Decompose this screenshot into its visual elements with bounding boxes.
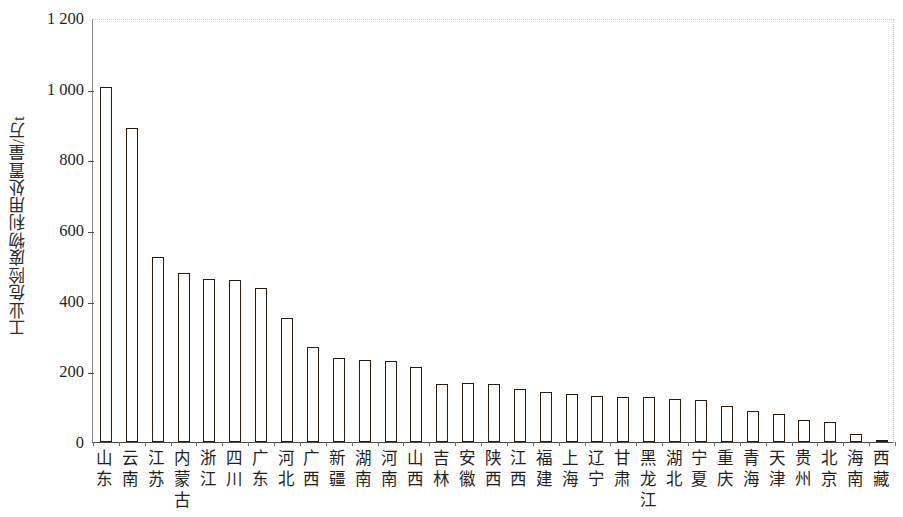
- y-axis-tick-label: 800: [59, 150, 84, 170]
- x-axis-tick-label-char: 海: [842, 448, 868, 469]
- x-axis-tick-label: 重庆: [713, 448, 739, 490]
- x-axis-tick-mark: [248, 442, 249, 446]
- x-axis-tick-label-char: 新: [325, 448, 351, 469]
- bar: [410, 367, 422, 442]
- x-axis-tick-label-char: 江: [506, 448, 532, 469]
- bar: [281, 318, 293, 442]
- x-axis-tick-mark: [533, 442, 534, 446]
- bars-layer: [93, 20, 893, 442]
- x-axis-tick-label-char: 内: [170, 448, 196, 469]
- x-axis-tick-mark: [429, 442, 430, 446]
- x-axis-tick-label: 北京: [816, 448, 842, 490]
- bar: [152, 257, 164, 443]
- x-axis-tick-label-char: 河: [377, 448, 403, 469]
- x-axis-tick-label-char: 湖: [661, 448, 687, 469]
- bar: [617, 397, 629, 442]
- x-axis-tick-mark: [610, 442, 611, 446]
- y-axis-tick-label: 1 200: [47, 9, 84, 29]
- bar: [798, 420, 810, 442]
- x-axis-tick-mark: [585, 442, 586, 446]
- x-axis-tick-label-char: 古: [170, 490, 196, 511]
- x-axis-tick-label-char: 江: [195, 469, 221, 490]
- x-axis-tick-label: 福建: [532, 448, 558, 490]
- x-axis-tick-mark: [714, 442, 715, 446]
- bar: [514, 389, 526, 442]
- x-axis-tick-label: 甘肃: [609, 448, 635, 490]
- bar: [747, 411, 759, 442]
- x-axis-tick-mark: [507, 442, 508, 446]
- bar: [850, 434, 862, 442]
- x-axis-tick-label: 四川: [221, 448, 247, 490]
- x-axis-tick-label-char: 吉: [428, 448, 454, 469]
- bar: [643, 397, 655, 442]
- x-axis-tick-mark: [119, 442, 120, 446]
- x-axis-tick-label-char: 福: [532, 448, 558, 469]
- x-axis-tick-label-char: 上: [558, 448, 584, 469]
- bar: [566, 394, 578, 442]
- x-axis-tick-label-char: 贵: [790, 448, 816, 469]
- x-axis-tick-label-char: 南: [118, 469, 144, 490]
- x-axis-tick-label: 山西: [402, 448, 428, 490]
- x-axis-tick-mark: [740, 442, 741, 446]
- bar: [100, 87, 112, 442]
- x-axis-tick-label: 黑龙江: [635, 448, 661, 511]
- x-axis-tick-mark: [688, 442, 689, 446]
- x-axis-tick-mark: [274, 442, 275, 446]
- x-axis-tick-label-char: 黑: [635, 448, 661, 469]
- x-axis-tick-label: 西藏: [868, 448, 894, 490]
- x-axis-tick-mark: [145, 442, 146, 446]
- x-axis-tick-label: 内蒙古: [170, 448, 196, 511]
- x-axis-tick-label: 云南: [118, 448, 144, 490]
- x-axis-tick-label-char: 河: [273, 448, 299, 469]
- x-axis-tick-label: 江苏: [144, 448, 170, 490]
- x-axis-tick-mark: [196, 442, 197, 446]
- y-axis-tick-label: 600: [59, 221, 84, 241]
- x-axis-tick-label-char: 川: [221, 469, 247, 490]
- x-axis-tick-mark: [869, 442, 870, 446]
- bar-chart: 工业危险废物利用处置量/万t 02004006008001 0001 200 山…: [0, 0, 903, 517]
- x-axis-tick-mark: [171, 442, 172, 446]
- x-axis-tick-label-char: 西: [402, 469, 428, 490]
- x-axis-tick-mark: [636, 442, 637, 446]
- x-axis-tick-label-char: 东: [92, 469, 118, 490]
- y-axis-tick-mark: [88, 373, 94, 374]
- x-axis-tick-label-char: 云: [118, 448, 144, 469]
- x-axis-tick-label-char: 海: [739, 469, 765, 490]
- y-axis-tick-label: 1 000: [47, 80, 84, 100]
- x-axis-tick-label-char: 甘: [609, 448, 635, 469]
- y-axis-tick-label: 0: [76, 433, 84, 453]
- x-axis-tick-label: 宁夏: [687, 448, 713, 490]
- x-axis-tick-label-char: 南: [842, 469, 868, 490]
- x-axis-tick-label: 湖南: [351, 448, 377, 490]
- x-axis-tick-label-char: 广: [247, 448, 273, 469]
- x-axis-tick-label-char: 京: [816, 469, 842, 490]
- bar: [824, 422, 836, 442]
- x-axis-tick-label: 青海: [739, 448, 765, 490]
- y-axis-title-text: 工业危险废物利用处置量/万t: [7, 116, 31, 336]
- bar: [462, 383, 474, 442]
- x-axis-tick-mark: [326, 442, 327, 446]
- bar: [255, 288, 267, 442]
- x-axis-tick-label: 广西: [299, 448, 325, 490]
- x-axis-tick-label-char: 宁: [583, 469, 609, 490]
- x-axis-tick-label-char: 浙: [195, 448, 221, 469]
- x-axis-tick-label: 海南: [842, 448, 868, 490]
- bar: [385, 361, 397, 442]
- x-axis-tick-label-char: 山: [402, 448, 428, 469]
- y-axis-tick-mark: [88, 303, 94, 304]
- bar: [591, 396, 603, 442]
- x-axis-tick-label-char: 南: [377, 469, 403, 490]
- x-axis-tick-label-char: 天: [765, 448, 791, 469]
- bar: [436, 384, 448, 442]
- x-axis-tick-label-char: 青: [739, 448, 765, 469]
- x-axis-tick-label-char: 北: [273, 469, 299, 490]
- bar: [203, 279, 215, 442]
- x-axis-tick-label: 安徽: [454, 448, 480, 490]
- x-axis-tick-label-char: 江: [635, 490, 661, 511]
- x-axis-tick-label-char: 海: [558, 469, 584, 490]
- bar: [333, 358, 345, 442]
- x-axis-tick-label-char: 宁: [687, 448, 713, 469]
- x-axis-tick-label: 广东: [247, 448, 273, 490]
- x-axis-tick-labels: 山东云南江苏内蒙古浙江四川广东河北广西新疆湖南河南山西吉林安徽陕西江西福建上海辽…: [92, 448, 894, 517]
- x-axis-tick-label-char: 疆: [325, 469, 351, 490]
